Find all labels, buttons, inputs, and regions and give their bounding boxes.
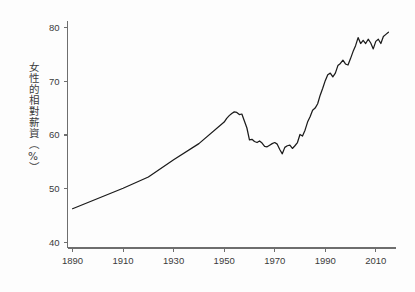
x-tick-label: 1970: [264, 255, 285, 266]
x-tick-label: 1930: [163, 255, 184, 266]
y-tick-label: 50: [49, 183, 60, 194]
y-tick-label: 60: [49, 129, 60, 140]
y-tick-label: 70: [49, 76, 60, 87]
data-series-line: [73, 32, 389, 209]
x-tick-label: 1890: [62, 255, 83, 266]
chart-figure: 女性的相對薪資（%） 4050607080 189019101930195019…: [0, 0, 415, 292]
y-axis-tick-group: 4050607080: [49, 22, 68, 248]
x-tick-label: 1910: [113, 255, 134, 266]
x-axis-tick-group: 1890191019301950197019902010: [62, 248, 386, 266]
y-tick-label: 40: [49, 237, 60, 248]
x-tick-label: 1990: [315, 255, 336, 266]
x-tick-label: 2010: [365, 255, 386, 266]
x-tick-label: 1950: [214, 255, 235, 266]
line-chart-canvas: 4050607080 1890191019301950197019902010: [0, 0, 415, 292]
y-tick-label: 80: [49, 22, 60, 33]
